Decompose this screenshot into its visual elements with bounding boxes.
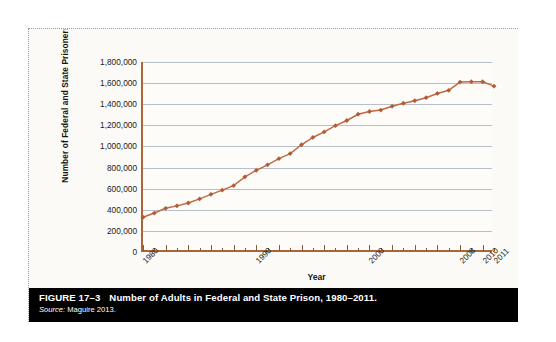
caption-title-text: Number of Adults in Federal and State Pr… [109, 292, 377, 303]
y-tick-label: 600,000 [65, 184, 137, 194]
y-tick-label: 1,800,000 [65, 57, 137, 67]
chart-plot-region: Number of Federal and State Prisoners 02… [29, 29, 518, 291]
data-point-marker [186, 201, 191, 206]
data-point-marker [412, 98, 417, 103]
data-point-marker [220, 188, 225, 193]
data-point-marker [390, 104, 395, 109]
data-series-line [143, 62, 494, 252]
y-tick-label: 400,000 [65, 205, 137, 215]
data-point-marker [424, 95, 429, 100]
caption-source-line: Source: Maguire 2013. [39, 305, 518, 314]
plot-area: 0200,000400,000600,000800,0001,000,0001,… [141, 62, 492, 252]
caption-figure-number: FIGURE 17–3 [39, 292, 100, 303]
caption-title-line: FIGURE 17–3Number of Adults in Federal a… [39, 292, 518, 303]
y-tick-label: 1,400,000 [65, 99, 137, 109]
series-polyline [143, 82, 494, 218]
data-point-marker [367, 109, 372, 114]
data-point-marker [469, 79, 474, 84]
data-point-marker [435, 91, 440, 96]
data-point-marker [209, 192, 214, 197]
data-point-marker [141, 215, 146, 220]
data-point-marker [401, 101, 406, 106]
data-point-marker [480, 79, 485, 84]
data-point-marker [492, 84, 497, 89]
x-axis-title: Year [141, 272, 492, 282]
figure-card: Number of Federal and State Prisoners 02… [29, 29, 518, 322]
caption-source-text: Maguire 2013. [67, 305, 116, 314]
y-tick-label: 200,000 [65, 226, 137, 236]
y-tick-label: 1,600,000 [65, 78, 137, 88]
caption-source-label: Source: [39, 305, 65, 314]
figure-caption-bar: FIGURE 17–3Number of Adults in Federal a… [29, 288, 518, 322]
data-point-marker [175, 203, 180, 208]
data-point-marker [197, 197, 202, 202]
figure-root: Number of Federal and State Prisoners 02… [0, 0, 556, 342]
data-point-marker [378, 108, 383, 113]
y-tick-label: 1,000,000 [65, 141, 137, 151]
y-tick-label: 0 [65, 247, 137, 257]
y-tick-label: 1,200,000 [65, 120, 137, 130]
data-point-marker [163, 206, 168, 211]
y-tick-label: 800,000 [65, 163, 137, 173]
data-point-marker [152, 211, 157, 216]
